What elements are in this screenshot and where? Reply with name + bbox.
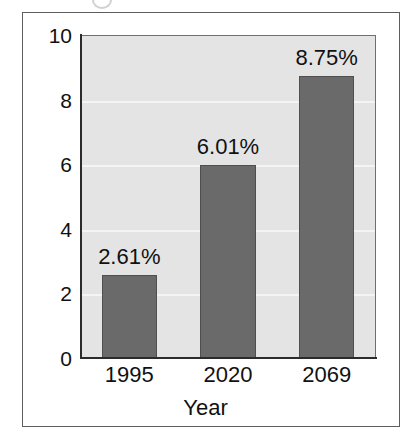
x-axis-title: Year [0, 397, 411, 419]
bar-value-label: 2.61% [98, 246, 160, 268]
bar [299, 76, 354, 358]
y-axis-tick-label: 0 [60, 348, 72, 369]
x-axis-tick-label: 2020 [204, 364, 253, 386]
bar-value-label: 8.75% [295, 47, 357, 69]
y-axis-tick-label: 4 [60, 218, 72, 239]
bar [102, 275, 157, 358]
y-axis-tick-label: 10 [49, 25, 72, 46]
x-axis-tick-label: 1995 [105, 364, 154, 386]
plot-area [80, 35, 376, 358]
y-axis-line [80, 34, 82, 359]
cropped-caption-fragment [92, 0, 112, 9]
chart-figure: 0246810 199520202069 2.61%6.01%8.75% Yea… [0, 0, 411, 439]
bar [200, 165, 255, 358]
y-axis-tick-label: 8 [60, 89, 72, 110]
x-axis-line [80, 357, 377, 359]
bar-value-label: 6.01% [197, 136, 259, 158]
y-axis-tick-label: 2 [60, 283, 72, 304]
x-axis-tick-label: 2069 [302, 364, 351, 386]
y-axis-tick-label: 6 [60, 154, 72, 175]
y-axis-tick-labels: 0246810 [30, 0, 72, 439]
